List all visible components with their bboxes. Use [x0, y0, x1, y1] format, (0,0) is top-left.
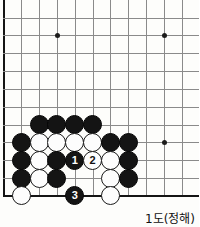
board-edge-left	[3, 0, 5, 197]
move-number-label: 3	[72, 190, 78, 201]
grid-line-horizontal	[3, 35, 200, 36]
white-stone[interactable]	[83, 133, 102, 152]
star-point	[162, 140, 167, 145]
move-number-label: 2	[90, 155, 96, 166]
grid-line-horizontal	[3, 53, 200, 54]
white-stone[interactable]	[101, 151, 120, 170]
black-stone[interactable]	[12, 151, 31, 170]
grid-line-vertical	[182, 0, 183, 197]
black-stone[interactable]	[47, 169, 66, 188]
grid-line-horizontal	[3, 107, 200, 108]
black-stone[interactable]	[119, 133, 138, 152]
black-stone[interactable]	[119, 151, 138, 170]
black-stone[interactable]	[83, 115, 102, 134]
white-stone[interactable]	[65, 133, 84, 152]
black-stone[interactable]	[12, 169, 31, 188]
move-number-label: 1	[72, 155, 78, 166]
black-stone[interactable]	[101, 133, 120, 152]
move-stone-3[interactable]: 3	[65, 186, 84, 205]
white-stone[interactable]	[47, 133, 66, 152]
grid-line-horizontal	[3, 18, 200, 19]
grid-line-vertical	[146, 0, 147, 197]
go-board[interactable]: 123	[0, 0, 199, 227]
white-stone[interactable]	[101, 186, 120, 205]
grid-line-vertical	[164, 0, 165, 197]
star-point	[55, 33, 60, 38]
black-stone[interactable]	[30, 115, 49, 134]
black-stone[interactable]	[12, 133, 31, 152]
black-stone[interactable]	[47, 151, 66, 170]
move-stone-2[interactable]: 2	[83, 151, 102, 170]
white-stone[interactable]	[30, 133, 49, 152]
black-stone[interactable]	[65, 115, 84, 134]
diagram-caption: 1도(정해)	[145, 209, 195, 226]
black-stone[interactable]	[119, 169, 138, 188]
move-stone-1[interactable]: 1	[65, 151, 84, 170]
grid-line-horizontal	[3, 71, 200, 72]
black-stone[interactable]	[47, 115, 66, 134]
white-stone[interactable]	[101, 169, 120, 188]
star-point	[162, 33, 167, 38]
go-problem-figure: 123 1도(정해)	[0, 0, 199, 227]
white-stone[interactable]	[30, 151, 49, 170]
white-stone[interactable]	[30, 169, 49, 188]
white-stone[interactable]	[12, 186, 31, 205]
grid-line-horizontal	[3, 89, 200, 90]
